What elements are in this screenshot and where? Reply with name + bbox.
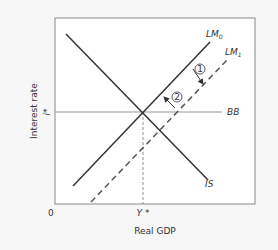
is-label: IS	[205, 179, 214, 189]
step-1-label: 1	[197, 64, 203, 74]
y-star-label: Y *	[137, 208, 150, 218]
origin-label: 0	[48, 208, 54, 218]
i-star-label: i*	[42, 108, 52, 116]
step-2-label: 2	[174, 92, 180, 102]
is-lm-bb-diagram: 1 2 LM0 LM1 BB IS 0 Y * i* Real GDP Inte…	[0, 0, 278, 250]
bb-label: BB	[227, 107, 239, 117]
y-axis-title: Interest rate	[29, 83, 39, 139]
plot-frame	[55, 18, 255, 204]
x-axis-title: Real GDP	[134, 226, 176, 236]
